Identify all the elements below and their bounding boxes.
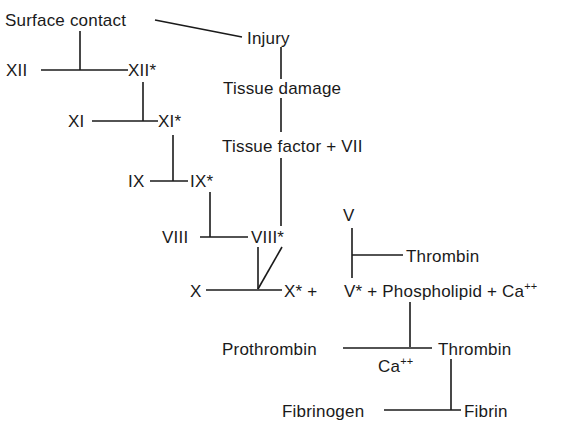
factor-x-active-label: X* + (284, 283, 317, 300)
factor-ix-label: IX (128, 173, 144, 190)
factor-xii-label: XII (6, 62, 27, 79)
tissue-factor-diagonal (258, 247, 282, 289)
tissue-damage-label: Tissue damage (223, 80, 341, 97)
factor-xii-active-label: XII* (128, 62, 156, 79)
surface-to-injury-line (155, 20, 242, 37)
calcium-cofactor-superscript: ++ (400, 355, 413, 367)
thrombin-feedback-label: Thrombin (406, 248, 479, 265)
calcium-text: Ca (378, 357, 400, 376)
prothrombinase-complex-label: V* + Phospholipid + Ca++ (344, 283, 537, 300)
factor-ix-active-label: IX* (190, 173, 213, 190)
prothrombin-label: Prothrombin (222, 341, 317, 358)
injury-label: Injury (247, 30, 290, 47)
fibrinogen-label: Fibrinogen (282, 403, 364, 420)
thrombin-label: Thrombin (438, 341, 511, 358)
connector-lines (0, 0, 583, 428)
fibrin-label: Fibrin (464, 403, 508, 420)
factor-viii-label: VIII (162, 229, 188, 246)
calcium-cofactor-label: Ca++ (378, 358, 413, 375)
surface-contact-label: Surface contact (5, 12, 126, 29)
tissue-factor-vii-label: Tissue factor + VII (222, 138, 363, 155)
v-complex-text: V* + Phospholipid + Ca (344, 282, 524, 301)
calcium-superscript: ++ (524, 280, 537, 292)
coagulation-cascade-diagram: Surface contact Injury XII XII* Tissue d… (0, 0, 583, 428)
factor-x-label: X (190, 283, 202, 300)
factor-xi-active-label: XI* (158, 113, 181, 130)
factor-v-label: V (343, 207, 355, 224)
factor-xi-label: XI (68, 113, 84, 130)
factor-viii-active-label: VIII* (251, 229, 284, 246)
